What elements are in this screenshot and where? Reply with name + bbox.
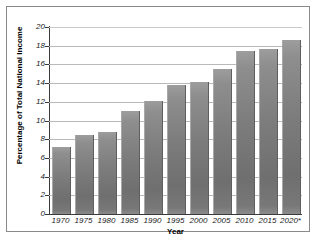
x-axis-tick-label: 2000 [187, 216, 210, 225]
bar [52, 147, 71, 214]
bar [167, 85, 186, 214]
plot-area [49, 27, 302, 214]
gridline [49, 46, 302, 47]
y-axis-title: Percentage of Total National Income [15, 11, 24, 181]
x-axis-line [45, 214, 302, 215]
bar [121, 111, 140, 214]
x-axis-tick-label: 1985 [118, 216, 141, 225]
bar [236, 51, 255, 214]
x-axis-tick-label: 2015 [256, 216, 279, 225]
x-axis-tick-label: 1970 [49, 216, 72, 225]
x-axis-tick-label: 1995 [164, 216, 187, 225]
chart-frame: 20181614121086420 1970197519801985199019… [6, 6, 310, 232]
bar [190, 82, 209, 214]
bar [98, 132, 117, 214]
bar [144, 101, 163, 214]
x-axis-tick-label: 1980 [95, 216, 118, 225]
y-axis-tick [45, 214, 49, 215]
x-axis-tick-label: 2020* [279, 216, 302, 225]
x-axis-tick-label: 2005 [210, 216, 233, 225]
bar [259, 49, 278, 214]
x-axis-tick-label: 2010 [233, 216, 256, 225]
x-axis-title: Year [49, 227, 302, 236]
y-axis-tick-label: 2 [15, 191, 45, 199]
y-axis-tick-label: 0 [15, 210, 45, 218]
x-axis-tick-label: 1975 [72, 216, 95, 225]
bar [282, 40, 301, 214]
bar [75, 135, 94, 214]
gridline [49, 27, 302, 28]
x-axis-tick-label: 1990 [141, 216, 164, 225]
bar [213, 69, 232, 214]
